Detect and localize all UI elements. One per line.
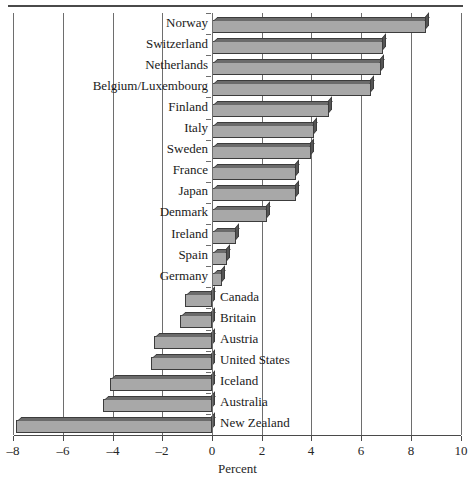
bar-sweden [212,146,311,159]
category-tick [206,224,211,225]
x-tick-mark [461,436,462,441]
bar-norway [212,20,426,33]
bar-france [212,167,296,180]
category-tick [206,76,211,77]
category-tick [206,119,211,120]
category-label: Finland [168,100,208,114]
x-tick-mark [361,436,362,441]
bar-denmark [212,209,267,222]
category-tick [206,97,211,98]
x-tick-label: –8 [0,443,33,458]
bar-ireland [212,231,236,244]
category-label: Italy [184,121,208,135]
bar-italy [212,125,314,138]
category-label: Denmark [160,205,208,219]
bar-austria [154,336,212,349]
bar-japan [212,188,296,201]
x-tick-mark [411,436,412,441]
category-tick [206,203,211,204]
category-label: Australia [220,395,268,409]
category-tick [206,287,211,288]
x-tick-label: 0 [192,443,232,458]
x-tick-label: 8 [391,443,431,458]
x-axis-title: Percent [0,461,475,477]
category-label: Britain [220,311,256,325]
category-label: Austria [220,332,258,346]
x-tick-mark [262,436,263,441]
bar-new-zealand [16,420,212,433]
x-axis-line [14,435,461,436]
category-label: Germany [160,269,208,283]
bar-canada [185,294,212,307]
bar-britain [180,315,212,328]
gridline-neg6 [63,13,64,435]
category-tick [206,266,211,267]
x-tick-mark [162,436,163,441]
plot-area: NorwaySwitzerlandNetherlandsBelgium/Luxe… [0,0,475,484]
gridline-8 [411,13,412,435]
bar-spain [212,252,227,265]
category-label: Ireland [171,227,208,241]
gridline-4 [311,13,312,435]
category-label: Iceland [220,374,258,388]
x-tick-label: –2 [142,443,182,458]
gridline-10 [461,13,462,435]
category-tick [206,55,211,56]
category-tick [206,308,211,309]
x-tick-mark [311,436,312,441]
gridline-neg2 [162,13,163,435]
category-label: Belgium/Luxembourg [93,79,208,93]
category-tick [206,372,211,373]
category-tick [206,393,211,394]
gridline-neg4 [113,13,114,435]
category-tick [206,351,211,352]
category-label: New Zealand [220,416,290,430]
x-tick-label: 4 [291,443,331,458]
bar-finland [212,104,329,117]
bar-iceland [110,378,212,391]
category-label: Sweden [167,142,208,156]
x-tick-mark [63,436,64,441]
category-label: Norway [166,16,208,30]
category-tick [206,245,211,246]
x-tick-label: 6 [341,443,381,458]
bar-united-states [151,357,212,370]
category-label: Japan [178,184,208,198]
x-tick-label: –6 [43,443,83,458]
category-label: Netherlands [145,58,208,72]
gridline-neg8 [13,13,14,435]
category-tick [206,414,211,415]
bar-belgium-luxembourg [212,83,371,96]
category-label: Canada [220,290,259,304]
x-tick-mark [13,436,14,441]
x-tick-label: 10 [441,443,475,458]
x-tick-mark [113,436,114,441]
gridline-2 [262,13,263,435]
category-label: Switzerland [146,37,208,51]
category-label: France [173,163,208,177]
category-tick [206,161,211,162]
category-tick [206,330,211,331]
x-tick-label: –4 [93,443,133,458]
x-tick-label: 2 [242,443,282,458]
category-tick [206,34,211,35]
gridline-6 [361,13,362,435]
zero-baseline-axis [212,13,213,435]
bar-australia [103,399,212,412]
category-label: Spain [178,248,208,262]
x-tick-mark [212,436,213,441]
chart-figure: NorwaySwitzerlandNetherlandsBelgium/Luxe… [0,0,475,484]
category-tick [206,13,211,14]
bar-switzerland [212,41,383,54]
category-label: United States [220,353,290,367]
category-tick [206,182,211,183]
category-tick [206,140,211,141]
bar-germany [212,273,222,286]
bar-netherlands [212,62,381,75]
